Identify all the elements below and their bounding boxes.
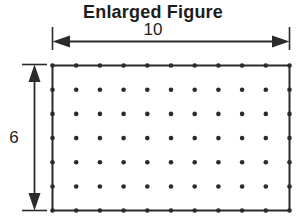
grid-dot: [121, 208, 126, 213]
height-dimension-line: [22, 65, 47, 211]
grid-dot: [192, 208, 197, 213]
grid-dot: [50, 136, 55, 141]
grid-dot: [98, 184, 103, 189]
grid-dot: [264, 160, 269, 165]
grid-dot: [264, 112, 269, 117]
grid-dot: [74, 63, 79, 68]
grid-dot: [74, 160, 79, 165]
enlarged-figure-diagram: Enlarged Figure: [0, 0, 306, 224]
height-dimension-label: 6: [6, 129, 22, 147]
grid-dot: [240, 208, 245, 213]
grid-dot: [192, 87, 197, 92]
grid-dot: [74, 136, 79, 141]
grid-dot: [74, 112, 79, 117]
grid-dot: [216, 136, 221, 141]
width-dimension-label: 10: [136, 21, 170, 39]
grid-dot: [216, 184, 221, 189]
grid-dot: [287, 184, 292, 189]
grid-dot: [145, 87, 150, 92]
grid-dot: [240, 136, 245, 141]
grid-dot: [240, 63, 245, 68]
grid-dot: [121, 87, 126, 92]
grid-dot: [240, 87, 245, 92]
grid-dot: [240, 184, 245, 189]
grid-dot: [98, 112, 103, 117]
grid-dot: [50, 184, 55, 189]
grid-dot: [98, 63, 103, 68]
grid-dot: [98, 208, 103, 213]
grid-dot: [145, 184, 150, 189]
grid-dot: [145, 63, 150, 68]
grid-dot: [50, 87, 55, 92]
grid-dot: [216, 63, 221, 68]
grid-dot: [169, 63, 174, 68]
grid-dot: [240, 160, 245, 165]
grid-dot: [169, 112, 174, 117]
grid-dot: [192, 184, 197, 189]
grid-dot: [145, 208, 150, 213]
grid-dot: [287, 136, 292, 141]
grid-dot: [121, 136, 126, 141]
grid-dot: [145, 160, 150, 165]
grid-dot: [98, 136, 103, 141]
width-arrowhead-left-icon: [53, 36, 71, 48]
grid-dot: [216, 160, 221, 165]
grid-dot: [240, 112, 245, 117]
grid-dot: [216, 87, 221, 92]
grid-dot: [287, 112, 292, 117]
grid-dot: [287, 87, 292, 92]
grid-dot: [264, 63, 269, 68]
grid-dot: [287, 63, 292, 68]
grid-dot: [50, 63, 55, 68]
grid-dot: [74, 87, 79, 92]
grid-dot: [264, 184, 269, 189]
grid-dot: [121, 63, 126, 68]
grid-dot: [192, 63, 197, 68]
grid-dot: [264, 87, 269, 92]
grid-dot: [121, 160, 126, 165]
width-arrowhead-right-icon: [272, 36, 290, 48]
grid-dot: [264, 136, 269, 141]
grid-dot: [287, 160, 292, 165]
grid-dot: [264, 208, 269, 213]
grid-dot: [121, 112, 126, 117]
dot-grid: [50, 63, 292, 213]
grid-dot: [192, 112, 197, 117]
grid-dot: [169, 136, 174, 141]
grid-dot: [169, 87, 174, 92]
height-arrowhead-top-icon: [29, 65, 41, 83]
grid-dot: [74, 184, 79, 189]
grid-dot: [98, 160, 103, 165]
grid-dot: [50, 208, 55, 213]
grid-dot: [192, 136, 197, 141]
grid-dot: [74, 208, 79, 213]
grid-dot: [98, 87, 103, 92]
grid-dot: [169, 208, 174, 213]
grid-dot: [145, 112, 150, 117]
grid-dot: [192, 160, 197, 165]
grid-dot: [216, 112, 221, 117]
grid-dot: [50, 160, 55, 165]
grid-dot: [145, 136, 150, 141]
height-arrowhead-bottom-icon: [29, 193, 41, 211]
grid-dot: [121, 184, 126, 189]
grid-dot: [169, 160, 174, 165]
grid-dot: [50, 112, 55, 117]
width-dimension-line: [53, 27, 290, 50]
grid-dot: [216, 208, 221, 213]
grid-dot: [169, 184, 174, 189]
grid-dot: [287, 208, 292, 213]
